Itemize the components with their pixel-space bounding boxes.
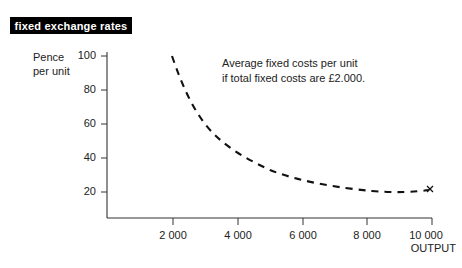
y-tick-label-20: 20 xyxy=(62,185,96,197)
x-tick-label-2000: 2 000 xyxy=(143,229,203,241)
x-tick-label-8000: 8 000 xyxy=(337,229,397,241)
y-tick-label-100: 100 xyxy=(62,49,96,61)
x-axis-ticks xyxy=(173,218,432,225)
chart-annotation-line2: if total fixed costs are £2.000. xyxy=(222,71,365,86)
x-tick-label-6000: 6 000 xyxy=(273,229,333,241)
x-tick-label-10000: 10 000 xyxy=(396,229,456,241)
y-axis-ticks xyxy=(101,56,107,192)
y-tick-label-80: 80 xyxy=(62,83,96,95)
chart-figure: fixed exchange rates xyxy=(0,0,462,268)
curve-end-marker xyxy=(427,186,433,192)
plot-area xyxy=(0,0,462,268)
y-tick-label-40: 40 xyxy=(62,151,96,163)
y-tick-label-60: 60 xyxy=(62,117,96,129)
x-axis-title: OUTPUT xyxy=(396,242,456,254)
chart-annotation-line1: Average fixed costs per unit xyxy=(222,56,365,71)
chart-annotation: Average fixed costs per unit if total fi… xyxy=(222,56,365,86)
y-axis-title-line2: per unit xyxy=(33,64,70,78)
x-tick-label-4000: 4 000 xyxy=(208,229,268,241)
